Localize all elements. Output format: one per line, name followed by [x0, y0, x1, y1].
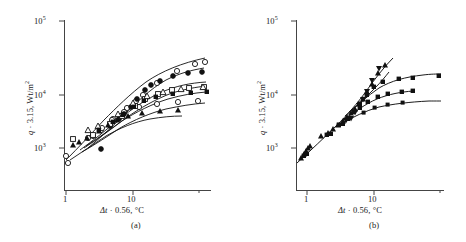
y-tick-exp-a-1: 4	[43, 89, 46, 95]
x-axis-label-a: Δt · 0.56, °C	[100, 205, 144, 215]
y-axis-exp-a: 2	[24, 81, 30, 84]
x-tick-label-a-1: 10	[127, 194, 136, 204]
y-tick-label-b-0: 105	[266, 15, 278, 26]
x-axis-symbol-a: Δt	[100, 205, 108, 215]
x-tick-label-a-0: 1	[63, 194, 67, 204]
x-tick-label-b-0: 1	[304, 194, 308, 204]
panel-caption-b: (b)	[369, 220, 379, 230]
y-tick-exp-b-1: 4	[275, 89, 278, 95]
panel-caption-a: (a)	[131, 220, 141, 230]
y-axis-symbol-a: q	[25, 131, 35, 135]
data-markers-b	[298, 62, 441, 160]
y-tick-exp-b-0: 5	[275, 15, 278, 21]
y-axis-symbol-b: q	[257, 131, 267, 135]
x-axis-rest-a: · 0.56, °C	[108, 205, 144, 215]
y-axis-exp-b: 2	[256, 81, 262, 84]
x-axis-rest-b: · 0.56, °C	[346, 205, 382, 215]
x-axis-label-b: Δt · 0.56, °C	[338, 205, 382, 215]
y-tick-exp-b-2: 3	[275, 142, 278, 148]
y-ticks-b	[291, 21, 296, 148]
y-tick-label-b-2: 103	[266, 142, 278, 153]
y-tick-label-a-0: 105	[34, 15, 46, 26]
figure-container: 105 104 103 1 10 q · 3.15, Wt/m2 Δt · 0.…	[0, 0, 466, 242]
x-tick-label-b-1: 10	[368, 194, 377, 204]
y-tick-label-a-1: 104	[34, 89, 46, 100]
y-axis-label-b: q · 3.15, Wt/m2	[256, 81, 267, 135]
y-ticks-a	[59, 21, 64, 148]
y-tick-label-b-1: 104	[266, 89, 278, 100]
panel-a: 105 104 103 1 10 q · 3.15, Wt/m2 Δt · 0.…	[0, 0, 233, 242]
x-axis-symbol-b: Δt	[338, 205, 346, 215]
y-tick-exp-a-2: 3	[43, 142, 46, 148]
y-axis-rest-b: · 3.15, Wt/m	[257, 84, 267, 131]
y-axis-label-a: q · 3.15, Wt/m2	[24, 81, 35, 135]
panel-b: 105 104 103 1 10 q · 3.15, Wt/m2 Δt · 0.…	[233, 0, 466, 242]
y-tick-exp-a-0: 5	[43, 15, 46, 21]
y-axis-rest-a: · 3.15, Wt/m	[25, 84, 35, 131]
y-tick-label-a-2: 103	[34, 142, 46, 153]
trend-curves-b	[297, 58, 441, 163]
